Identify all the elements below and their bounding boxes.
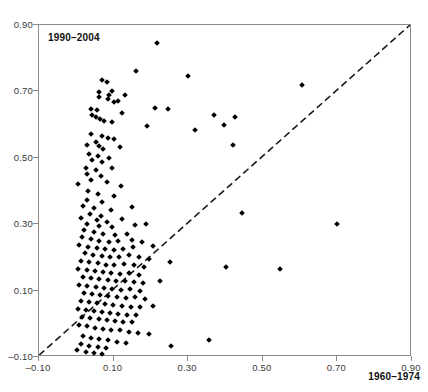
y-tick-label: 0.10 xyxy=(0,284,33,295)
x-tick-label: –0.10 xyxy=(26,362,51,373)
series-label-1990-2004: 1990–2004 xyxy=(48,32,100,43)
y-tick-mark xyxy=(33,24,38,25)
y-tick-label: 0.70 xyxy=(0,85,33,96)
x-tick-label: 0.70 xyxy=(327,362,346,373)
x-tick-mark xyxy=(38,356,39,361)
y-tick-mark xyxy=(33,290,38,291)
x-tick-label: 0.50 xyxy=(252,362,271,373)
scatter-plot-figure: –0.100.100.300.500.700.90 –0.100.100.300… xyxy=(0,0,428,392)
x-tick-mark xyxy=(187,356,188,361)
y-tick-label: 0.30 xyxy=(0,218,33,229)
x-tick-label: 0.10 xyxy=(103,362,122,373)
y-tick-label: 0.50 xyxy=(0,151,33,162)
x-tick-mark xyxy=(336,356,337,361)
y-tick-label: –0.10 xyxy=(0,351,33,362)
y-tick-mark xyxy=(33,157,38,158)
x-tick-mark xyxy=(262,356,263,361)
y-axis: –0.100.100.300.500.700.90 xyxy=(0,0,428,392)
x-tick-mark xyxy=(411,356,412,361)
series-label-1960-1974: 1960–1974 xyxy=(368,371,420,382)
y-tick-mark xyxy=(33,223,38,224)
x-tick-mark xyxy=(113,356,114,361)
x-tick-label: 0.30 xyxy=(178,362,197,373)
y-tick-label: 0.90 xyxy=(0,19,33,30)
y-tick-mark xyxy=(33,90,38,91)
